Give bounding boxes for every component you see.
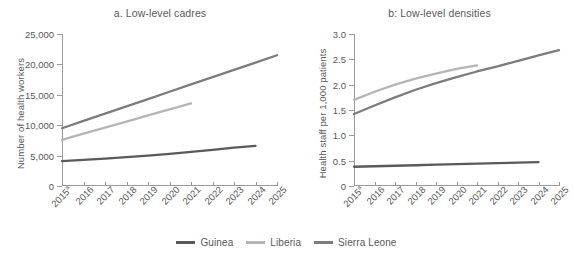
y-axis-tick-label: 5,000 [30, 150, 54, 161]
y-axis-tick [349, 161, 354, 162]
series-line-sierra-leone [354, 50, 559, 114]
y-axis-tick-label: 2.0 [333, 79, 346, 90]
legend-item-label: Liberia [270, 237, 301, 248]
y-axis-tick [57, 34, 62, 35]
chart-a-title: a. Low-level cadres [0, 7, 292, 19]
y-axis-tick-label: 25,000 [25, 29, 54, 40]
x-axis-tick [84, 182, 85, 186]
series-line-liberia [354, 65, 477, 99]
x-axis-tick [539, 182, 540, 186]
y-axis-tick [349, 59, 354, 60]
legend-item-guinea: Guinea [176, 237, 233, 248]
y-axis-tick-label: 15,000 [25, 89, 54, 100]
y-axis-tick-label: 0.5 [333, 155, 346, 166]
chart-b-y-axis-label: Health staff per 1,000 patients [317, 34, 328, 194]
y-axis-tick [349, 34, 354, 35]
chart-panel-a: a. Low-level cadres Number of health wor… [0, 0, 292, 232]
chart-a-plot-area: 05,00010,00015,00020,00025,0002015a20162… [62, 34, 277, 186]
y-axis-tick-label: 10,000 [25, 120, 54, 131]
chart-b-series-lines [354, 34, 559, 186]
chart-panel-b: b: Low-level densities Health staff per … [292, 0, 573, 232]
y-axis-tick [57, 125, 62, 126]
chart-a-y-axis-label: Number of health workers [15, 39, 26, 189]
y-axis-tick-label: 0 [341, 181, 346, 192]
y-axis-tick-label: 0 [49, 181, 54, 192]
chart-b-plot-area: 00.51.01.52.02.53.02015a2016201720182019… [354, 34, 559, 186]
x-axis-tick [498, 182, 499, 186]
legend-line-icon [246, 241, 265, 244]
y-axis-tick-label: 1.5 [333, 105, 346, 116]
y-axis-tick [57, 64, 62, 65]
legend-line-icon [314, 241, 333, 244]
x-axis-tick [213, 182, 214, 186]
legend-item-label: Sierra Leone [338, 237, 396, 248]
x-axis-tick [170, 182, 171, 186]
x-axis-tick [416, 182, 417, 186]
x-axis-tick [457, 182, 458, 186]
x-axis-tick [127, 182, 128, 186]
chart-b-title: b: Low-level densities [292, 7, 573, 19]
y-axis-tick-label: 1.0 [333, 130, 346, 141]
legend-line-icon [176, 241, 195, 244]
y-axis-tick-label: 2.5 [333, 54, 346, 65]
x-axis-tick [256, 182, 257, 186]
legend-item-label: Guinea [200, 237, 233, 248]
legend-item-sierra-leone: Sierra Leone [314, 237, 396, 248]
y-axis-tick [57, 156, 62, 157]
chart-legend: GuineaLiberiaSierra Leone [0, 237, 573, 248]
x-axis-tick [375, 182, 376, 186]
legend-item-liberia: Liberia [246, 237, 301, 248]
series-line-guinea [62, 146, 256, 161]
y-axis-tick-label: 3.0 [333, 29, 346, 40]
y-axis-tick [349, 85, 354, 86]
y-axis-tick [57, 95, 62, 96]
chart-a-series-lines [62, 34, 277, 186]
series-line-guinea [354, 162, 539, 167]
y-axis-tick-label: 20,000 [25, 59, 54, 70]
figure-container: a. Low-level cadres Number of health wor… [0, 0, 573, 260]
series-line-sierra-leone [62, 55, 277, 128]
y-axis-tick [349, 110, 354, 111]
y-axis-tick [349, 135, 354, 136]
